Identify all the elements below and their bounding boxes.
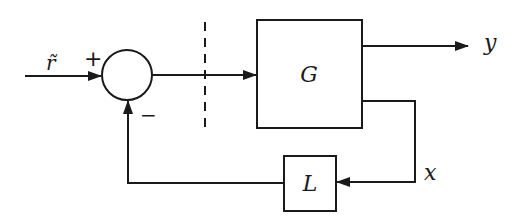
output-label: y xyxy=(483,30,497,55)
block-g-label: G xyxy=(300,62,318,87)
block-diagram: r̃ + − G y x L xyxy=(0,0,519,224)
block-l-label: L xyxy=(302,171,318,196)
plus-sign: + xyxy=(84,46,102,71)
input-label: r̃ xyxy=(46,51,58,75)
minus-sign: − xyxy=(140,103,157,127)
summing-junction xyxy=(102,50,152,100)
state-path xyxy=(337,101,415,182)
state-label: x xyxy=(424,160,437,185)
